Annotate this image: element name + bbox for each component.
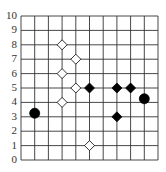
grid-diagram [0, 0, 166, 172]
y-tick-label: 1 [3, 140, 17, 151]
y-tick-label: 5 [3, 82, 17, 93]
open-diamond-marker [71, 83, 81, 93]
open-diamond-marker [71, 54, 81, 64]
y-tick-label: 8 [3, 39, 17, 50]
y-tick-label: 10 [3, 10, 17, 21]
y-tick-label: 0 [3, 154, 17, 165]
y-tick-label: 3 [3, 111, 17, 122]
open-diamond-marker [57, 97, 67, 107]
y-tick-label: 6 [3, 68, 17, 79]
open-diamond-marker [57, 40, 67, 50]
y-tick-label: 9 [3, 24, 17, 35]
open-diamond-marker [85, 141, 95, 151]
filled-diamond-marker [112, 83, 122, 93]
filled-diamond-marker [85, 83, 95, 93]
filled-circle-marker [139, 94, 149, 104]
y-tick-label: 2 [3, 125, 17, 136]
filled-circle-marker [30, 108, 40, 118]
filled-diamond-marker [112, 112, 122, 122]
y-tick-label: 7 [3, 53, 17, 64]
y-tick-label: 4 [3, 96, 17, 107]
open-diamond-marker [57, 69, 67, 79]
filled-diamond-marker [126, 83, 136, 93]
